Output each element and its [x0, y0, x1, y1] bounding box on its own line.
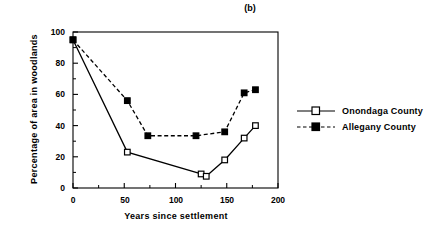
data-point — [125, 149, 131, 155]
data-point — [193, 133, 199, 139]
data-point — [125, 98, 131, 104]
data-point — [241, 135, 247, 141]
axes-spines — [73, 32, 278, 188]
chart-figure: (b) Percentage of area in woodlands Year… — [0, 0, 442, 235]
data-point — [222, 129, 228, 135]
data-series-group — [70, 37, 258, 179]
data-point — [241, 90, 247, 96]
data-point — [222, 157, 228, 163]
chart-legend: Onondaga County Allegany County — [296, 103, 423, 135]
legend-item-allegany: Allegany County — [296, 119, 423, 135]
legend-item-onondaga: Onondaga County — [296, 103, 423, 119]
data-point — [253, 123, 259, 129]
data-point — [70, 37, 76, 43]
data-point — [203, 174, 209, 180]
data-point — [145, 133, 151, 139]
legend-label-onondaga: Onondaga County — [336, 106, 423, 116]
legend-label-allegany: Allegany County — [336, 122, 416, 132]
data-point — [253, 87, 259, 93]
legend-sample-onondaga — [296, 104, 336, 118]
series-line-0 — [73, 40, 255, 177]
series-line-1 — [73, 40, 255, 136]
axis-ticks — [73, 32, 278, 188]
legend-sample-allegany — [296, 120, 336, 134]
